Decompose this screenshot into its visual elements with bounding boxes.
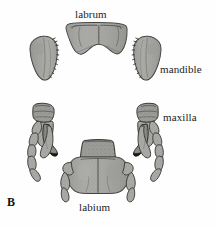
panel-letter-b: B [7, 196, 15, 208]
label-labium: labium [79, 202, 110, 213]
mandible-right-highlight [147, 43, 156, 55]
labium-highlight-right [106, 163, 120, 181]
label-mandible: mandible [160, 64, 202, 75]
label-labrum: labrum [75, 9, 107, 20]
mouthparts-figure: labrum mandible maxilla labium B [0, 0, 216, 226]
mandible-left-highlight [36, 43, 45, 55]
labium-highlight-left [77, 163, 91, 181]
label-maxilla: maxilla [163, 112, 197, 123]
labium-submentum [80, 140, 115, 158]
